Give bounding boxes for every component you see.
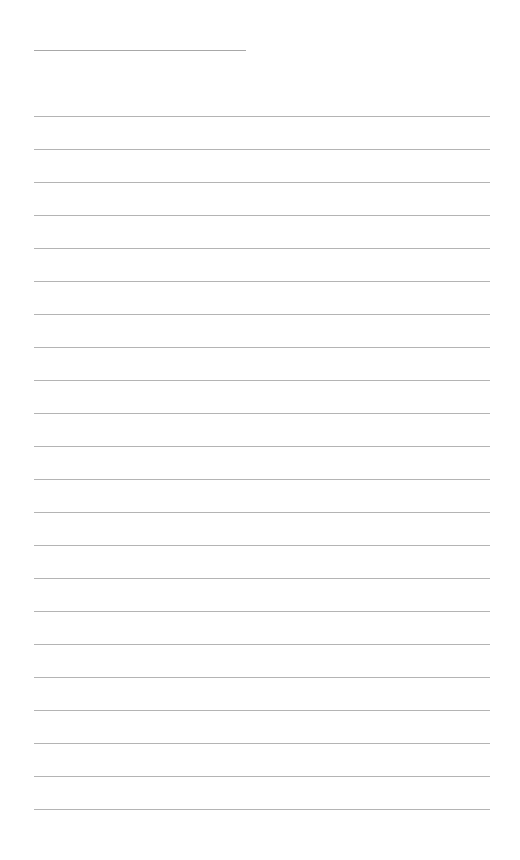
ruled-line [34, 149, 490, 150]
ruled-line [34, 182, 490, 183]
ruled-line [34, 743, 490, 744]
ruled-line [34, 611, 490, 612]
ruled-line [34, 677, 490, 678]
ruled-line [34, 347, 490, 348]
ruled-line [34, 512, 490, 513]
ruled-line [34, 413, 490, 414]
ruled-line [34, 446, 490, 447]
ruled-line [34, 281, 490, 282]
ruled-line [34, 710, 490, 711]
ruled-line [34, 314, 490, 315]
ruled-lines [0, 0, 520, 860]
ruled-line [34, 380, 490, 381]
ruled-line [34, 809, 490, 810]
ruled-line [34, 578, 490, 579]
ruled-line [34, 776, 490, 777]
ruled-line [34, 479, 490, 480]
ruled-line [34, 644, 490, 645]
ruled-line [34, 116, 490, 117]
ruled-line [34, 248, 490, 249]
ruled-line [34, 545, 490, 546]
lined-page [0, 0, 520, 860]
ruled-line [34, 215, 490, 216]
